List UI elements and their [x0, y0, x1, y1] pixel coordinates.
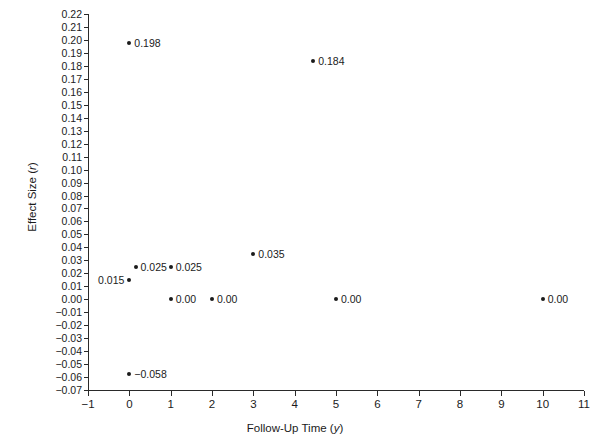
scatter-plot-figure: 0.220.210.200.190.180.170.160.150.140.13…	[0, 0, 590, 446]
data-point-label: 0.00	[176, 294, 196, 305]
y-tick-mark	[84, 273, 88, 274]
data-point-label: −0.058	[134, 369, 166, 380]
x-tick-label: 7	[399, 399, 439, 411]
y-tick-mark	[84, 338, 88, 339]
y-axis-title-close: )	[26, 162, 38, 166]
x-tick-label: 5	[316, 399, 356, 411]
x-axis-title-close: )	[339, 422, 343, 434]
x-tick-label: 9	[481, 399, 521, 411]
y-tick-mark	[84, 66, 88, 67]
y-tick-label: 0.03	[40, 255, 82, 266]
x-tick-mark	[543, 391, 544, 396]
x-tick-mark	[253, 391, 254, 396]
x-tick-label: 0	[109, 399, 149, 411]
y-tick-mark	[84, 221, 88, 222]
y-tick-mark	[84, 312, 88, 313]
x-tick-mark	[295, 391, 296, 396]
y-tick-mark	[84, 364, 88, 365]
y-tick-mark	[84, 105, 88, 106]
y-tick-label: 0.14	[40, 113, 82, 124]
x-tick-mark	[171, 391, 172, 396]
y-tick-label: 0.13	[40, 126, 82, 137]
y-axis-title-text: Effect Size (	[26, 170, 38, 232]
y-tick-label: 0.17	[40, 74, 82, 85]
data-point-label: 0.025	[176, 262, 202, 273]
y-tick-label: 0.20	[40, 35, 82, 46]
x-tick-mark	[460, 391, 461, 396]
x-tick-mark	[584, 391, 585, 396]
data-point-label: 0.015	[98, 275, 124, 286]
y-tick-label: 0.07	[40, 203, 82, 214]
y-tick-mark	[84, 157, 88, 158]
x-tick-label: 11	[564, 399, 590, 411]
data-point-label: 0.025	[141, 262, 167, 273]
y-tick-label: 0.02	[40, 268, 82, 279]
data-point-label: 0.035	[258, 249, 284, 260]
x-tick-label: 4	[275, 399, 315, 411]
y-tick-label: −0.05	[40, 359, 82, 370]
y-tick-mark	[84, 377, 88, 378]
x-tick-mark	[419, 391, 420, 396]
y-tick-mark	[84, 92, 88, 93]
y-tick-label: 0.15	[40, 100, 82, 111]
data-point	[311, 59, 315, 63]
y-tick-label: 0.08	[40, 191, 82, 202]
y-tick-mark	[84, 170, 88, 171]
y-tick-label: −0.02	[40, 320, 82, 331]
plot-area	[88, 14, 584, 390]
y-tick-label: 0.04	[40, 242, 82, 253]
x-tick-mark	[501, 391, 502, 396]
data-point-label: 0.00	[548, 294, 568, 305]
y-tick-mark	[84, 325, 88, 326]
x-tick-mark	[336, 391, 337, 396]
y-tick-label: 0.01	[40, 281, 82, 292]
y-tick-label: 0.18	[40, 61, 82, 72]
x-tick-mark	[212, 391, 213, 396]
y-tick-label: 0.11	[40, 152, 82, 163]
y-tick-mark	[84, 131, 88, 132]
y-tick-mark	[84, 234, 88, 235]
y-tick-label: 0.19	[40, 48, 82, 59]
y-tick-label: −0.07	[40, 385, 82, 396]
y-tick-mark	[84, 53, 88, 54]
y-tick-label: 0.06	[40, 216, 82, 227]
y-axis-line	[88, 14, 89, 391]
y-tick-label: −0.01	[40, 307, 82, 318]
data-point	[169, 297, 173, 301]
x-tick-label: 10	[523, 399, 563, 411]
x-tick-label: 8	[440, 399, 480, 411]
x-axis-title-text: Follow-Up Time (	[247, 422, 334, 434]
y-tick-mark	[84, 40, 88, 41]
x-tick-label: 6	[357, 399, 397, 411]
y-tick-mark	[84, 14, 88, 15]
y-axis-title: Effect Size (r)	[26, 77, 38, 317]
y-tick-mark	[84, 286, 88, 287]
y-tick-label: 0.21	[40, 22, 82, 33]
y-axis-title-variable: r	[26, 166, 38, 170]
x-tick-mark	[129, 391, 130, 396]
data-point	[127, 41, 131, 45]
x-tick-label: 1	[151, 399, 191, 411]
x-tick-label: −1	[68, 399, 108, 411]
y-tick-label: 0.09	[40, 178, 82, 189]
y-tick-label: 0.05	[40, 229, 82, 240]
data-point	[134, 265, 138, 269]
y-tick-mark	[84, 260, 88, 261]
y-tick-label: 0.16	[40, 87, 82, 98]
y-tick-label: 0.12	[40, 139, 82, 150]
y-tick-label: −0.06	[40, 372, 82, 383]
data-point	[169, 265, 173, 269]
data-point-label: 0.00	[217, 294, 237, 305]
y-tick-mark	[84, 118, 88, 119]
y-tick-mark	[84, 208, 88, 209]
y-tick-mark	[84, 183, 88, 184]
y-tick-mark	[84, 351, 88, 352]
y-tick-label: −0.03	[40, 333, 82, 344]
x-tick-label: 3	[233, 399, 273, 411]
y-tick-label: −0.04	[40, 346, 82, 357]
y-tick-mark	[84, 247, 88, 248]
y-tick-mark	[84, 144, 88, 145]
x-axis-title: Follow-Up Time (y)	[0, 422, 590, 434]
y-tick-mark	[84, 299, 88, 300]
y-tick-label: 0.10	[40, 165, 82, 176]
